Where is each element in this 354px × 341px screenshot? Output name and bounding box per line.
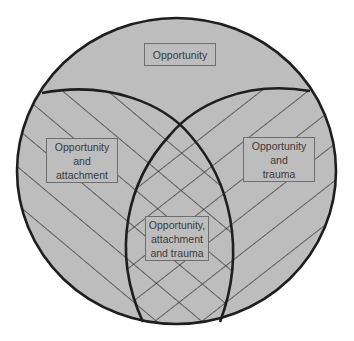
label-opportunity-trauma-line-2: and (270, 153, 288, 167)
label-opportunity-attachment-line-2: and (73, 154, 91, 168)
label-center-line-1: Opportunity, (149, 218, 205, 232)
label-opportunity-attachment-trauma: Opportunity, attachment and trauma (145, 216, 209, 261)
label-opportunity-attachment-line-3: attachment (56, 168, 108, 182)
label-center-line-2: attachment (151, 232, 203, 246)
label-opportunity-attachment: Opportunity and attachment (46, 138, 118, 183)
label-opportunity-line-1: Opportunity (153, 48, 207, 62)
label-opportunity: Opportunity (144, 43, 216, 66)
label-opportunity-trauma-line-1: Opportunity (252, 139, 306, 153)
label-opportunity-attachment-line-1: Opportunity (55, 140, 109, 154)
label-opportunity-trauma: Opportunity and trauma (243, 137, 315, 182)
label-opportunity-trauma-line-3: trauma (263, 167, 296, 181)
label-center-line-3: and trauma (150, 246, 203, 260)
